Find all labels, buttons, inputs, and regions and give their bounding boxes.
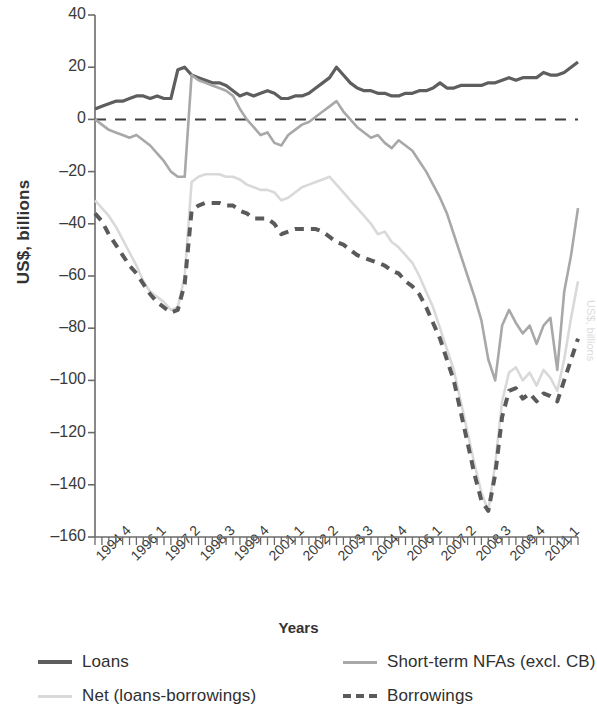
legend-item[interactable]: Net (loans-borrowings)	[38, 684, 256, 708]
data-series-group	[95, 62, 578, 511]
legend-label: Short-term NFAs (excl. CB)	[387, 652, 596, 672]
legend-swatch-icon	[343, 694, 377, 698]
axes	[88, 15, 578, 545]
series-line-1	[95, 75, 578, 380]
legend-label: Loans	[82, 652, 129, 672]
legend-swatch-icon	[343, 661, 377, 664]
plot-area	[0, 0, 597, 712]
legend-swatch-icon	[38, 695, 72, 698]
series-line-2	[95, 174, 578, 511]
legend-swatch-icon	[38, 660, 72, 664]
legend-item[interactable]: Borrowings	[343, 684, 473, 708]
chart-legend: LoansShort-term NFAs (excl. CB)Net (loan…	[38, 650, 597, 712]
chart-figure: US$, billions Years 40200–20–40–60–80–10…	[0, 0, 597, 712]
legend-item[interactable]: Short-term NFAs (excl. CB)	[343, 650, 596, 674]
legend-label: Borrowings	[387, 686, 473, 706]
clipped-right-edge-text: US$, billions	[583, 300, 597, 390]
legend-item[interactable]: Loans	[38, 650, 129, 674]
series-line-3	[95, 203, 578, 511]
legend-label: Net (loans-borrowings)	[82, 686, 256, 706]
